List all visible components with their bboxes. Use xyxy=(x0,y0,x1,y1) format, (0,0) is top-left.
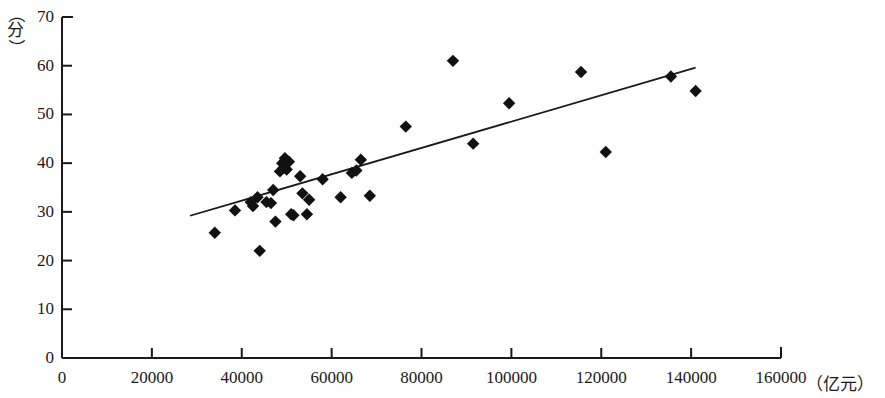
plot-canvas xyxy=(0,0,885,398)
y-tick-label: 70 xyxy=(18,7,54,27)
data-point-marker xyxy=(301,208,313,220)
data-point-marker xyxy=(447,55,459,67)
data-point-marker xyxy=(665,70,677,82)
data-point-marker xyxy=(689,85,701,97)
x-tick-label: 160000 xyxy=(756,368,807,388)
axes-group xyxy=(62,17,781,358)
data-point-marker xyxy=(600,146,612,158)
trend-line xyxy=(190,68,696,216)
x-tick-label: 0 xyxy=(58,368,67,388)
data-point-marker xyxy=(400,120,412,132)
data-points-group xyxy=(209,55,702,257)
y-tick-label: 50 xyxy=(18,104,54,124)
x-tick-label: 140000 xyxy=(666,368,717,388)
y-axis-ticks xyxy=(62,17,72,309)
data-point-marker xyxy=(364,190,376,202)
data-point-marker xyxy=(254,245,266,257)
data-point-marker xyxy=(267,184,279,196)
data-point-marker xyxy=(294,170,306,182)
x-tick-label: 100000 xyxy=(486,368,537,388)
y-tick-label: 60 xyxy=(18,56,54,76)
y-tick-label: 0 xyxy=(18,348,54,368)
data-point-marker xyxy=(334,191,346,203)
y-tick-label: 40 xyxy=(18,153,54,173)
data-point-marker xyxy=(575,66,587,78)
data-point-marker xyxy=(209,227,221,239)
x-tick-label: 80000 xyxy=(400,368,443,388)
x-tick-label: 120000 xyxy=(576,368,627,388)
y-tick-label: 30 xyxy=(18,202,54,222)
x-axis-ticks xyxy=(152,348,691,358)
x-tick-label: 20000 xyxy=(131,368,174,388)
y-tick-label: 10 xyxy=(18,299,54,319)
data-point-marker xyxy=(503,97,515,109)
x-tick-label: 60000 xyxy=(310,368,353,388)
data-point-marker xyxy=(467,137,479,149)
data-point-marker xyxy=(269,215,281,227)
trend-line-segment xyxy=(190,68,696,216)
data-point-marker xyxy=(229,204,241,216)
y-tick-label: 20 xyxy=(18,251,54,271)
x-tick-label: 40000 xyxy=(221,368,264,388)
scatter-plot-figure: （ 分 ） （亿元） 010203040506070 0200004000060… xyxy=(0,0,885,398)
